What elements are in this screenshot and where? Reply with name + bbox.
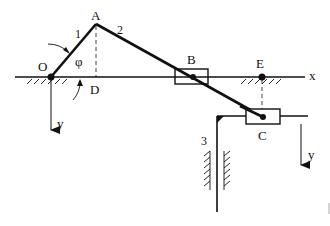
label-x-axis: x	[309, 68, 316, 83]
link-1	[51, 24, 96, 77]
ground-hatch-o	[27, 79, 67, 84]
label-link-3: 3	[201, 134, 207, 148]
joint-c	[260, 114, 266, 120]
label-phi: φ	[75, 54, 83, 69]
label-b: B	[187, 52, 196, 67]
mechanism-diagram: A O D B E C 1 2 3 φ x y y	[0, 0, 330, 226]
link-2	[96, 24, 263, 117]
label-link-2: 2	[117, 23, 123, 37]
label-y-right: y	[308, 147, 315, 162]
joint-b	[190, 74, 196, 80]
label-a: A	[91, 8, 101, 23]
joint-o	[48, 74, 55, 81]
joint-e	[259, 74, 266, 81]
label-o: O	[38, 59, 47, 74]
label-d: D	[90, 82, 99, 97]
label-e: E	[256, 56, 264, 71]
link-3-corner	[217, 116, 224, 123]
label-y-left: y	[57, 116, 64, 131]
label-link-1: 1	[75, 27, 81, 41]
label-c: C	[258, 128, 267, 143]
